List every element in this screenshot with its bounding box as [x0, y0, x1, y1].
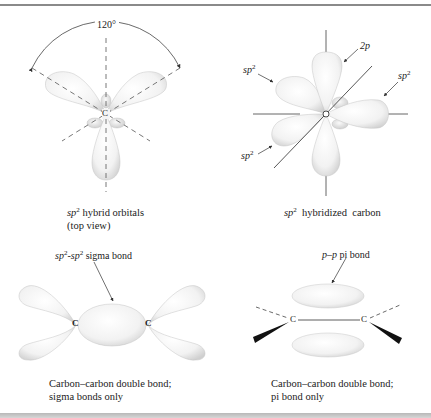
label-pi-bond: p–p pi bond [322, 249, 370, 260]
carbon-label-right: C [361, 314, 367, 324]
caption-sigma-bond: Carbon–carbon double bond; sigma bonds o… [49, 377, 171, 403]
angle-label: 120° [97, 19, 116, 30]
caption-pi-bond: Carbon–carbon double bond; pi bond only [271, 377, 393, 403]
caption-line2: (top view) [67, 220, 110, 231]
carbon-label-right: C [145, 318, 152, 328]
label-sp2-lower-left: sp2 [241, 150, 253, 161]
panel-pi-bond [253, 258, 402, 357]
orbital-lobe-upper-left [45, 72, 106, 114]
panel-sp2-hybridized-carbon [253, 30, 408, 196]
pi-lobe-upper [292, 284, 364, 308]
carbon-label: C [102, 108, 108, 118]
orbital-lobe-upper-right [106, 72, 167, 114]
bottom-rule [0, 413, 431, 418]
caption-sp2-hybridized-carbon: sp2 hybridized carbon [284, 206, 381, 219]
label-sp2-right: sp2 [398, 70, 410, 81]
label-2p: 2p [360, 40, 370, 51]
caption-sp-text: sp [67, 207, 76, 218]
pi-lobe-lower [292, 333, 364, 357]
sigma-bond-orbital [78, 304, 146, 346]
caption-rest: hybrid orbitals [80, 207, 144, 218]
label-sigma-bond: sp2-sp2 sigma bond [55, 250, 132, 261]
label-sp2-upper-left: sp2 [243, 64, 255, 75]
carbon-label-left: C [290, 314, 296, 324]
caption-sp2-top-view: sp2 hybrid orbitals (top view) [67, 206, 144, 232]
panel-sp2-top-view [32, 18, 180, 192]
panel-sigma-bond [19, 262, 205, 360]
carbon-label-left: C [72, 318, 79, 328]
